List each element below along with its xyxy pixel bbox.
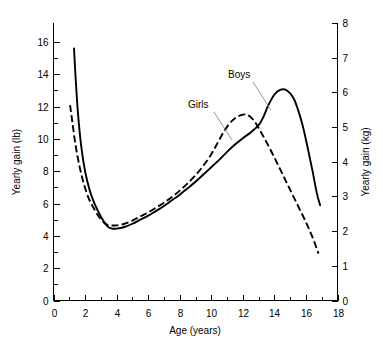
chart-container: 0246810121416 012345678 024681012141618 … [0, 0, 383, 349]
y-right-tick-label: 0 [343, 296, 349, 307]
x-tick-label: 14 [269, 308, 281, 319]
x-tick-label: 2 [83, 308, 89, 319]
x-tick-label: 4 [115, 308, 121, 319]
x-tick-label: 16 [301, 308, 313, 319]
series-label-boys: Boys [228, 69, 250, 80]
y-right-tick-label: 7 [343, 53, 349, 64]
y-axis-right-title: Yearly gain (kg) [360, 127, 371, 196]
bottom-axis-tick-labels: 024681012141618 [52, 308, 345, 319]
right-axis-ticks [332, 24, 338, 302]
series-curve-boys [74, 48, 320, 228]
y-left-tick-label: 12 [37, 102, 49, 113]
x-tick-label: 6 [146, 308, 152, 319]
y-left-tick-label: 2 [43, 263, 49, 274]
y-left-tick-label: 0 [43, 296, 49, 307]
series-label-girls: Girls [188, 99, 209, 110]
series-curve-girls [70, 105, 319, 254]
y-axis-left-title: Yearly gain (lb) [11, 129, 22, 195]
x-tick-label: 12 [238, 308, 250, 319]
x-axis-title: Age (years) [169, 325, 221, 336]
y-right-tick-label: 2 [343, 226, 349, 237]
y-left-tick-label: 4 [43, 231, 49, 242]
y-right-tick-label: 5 [343, 122, 349, 133]
bottom-axis-ticks [55, 295, 339, 301]
right-axis-tick-labels: 012345678 [343, 18, 349, 307]
y-right-tick-label: 4 [343, 157, 349, 168]
y-left-tick-label: 8 [43, 166, 49, 177]
growth-velocity-chart: 0246810121416 012345678 024681012141618 … [0, 0, 383, 349]
boys-leader-line [253, 82, 271, 110]
x-tick-label: 0 [52, 308, 58, 319]
girls-leader-line [214, 112, 232, 140]
x-tick-label: 18 [333, 308, 345, 319]
axes-group [54, 23, 338, 301]
y-right-tick-label: 3 [343, 191, 349, 202]
y-right-tick-label: 1 [343, 261, 349, 272]
y-left-tick-label: 16 [37, 37, 49, 48]
left-axis-tick-labels: 0246810121416 [37, 37, 49, 307]
data-series-group [70, 48, 320, 253]
left-axis-ticks [54, 43, 60, 302]
annotation-leaders [214, 82, 271, 140]
x-tick-label: 10 [206, 308, 218, 319]
y-left-tick-label: 6 [43, 199, 49, 210]
y-right-tick-label: 6 [343, 87, 349, 98]
y-left-tick-label: 10 [37, 134, 49, 145]
y-left-tick-label: 14 [37, 69, 49, 80]
x-tick-label: 8 [178, 308, 184, 319]
y-right-tick-label: 8 [343, 18, 349, 29]
